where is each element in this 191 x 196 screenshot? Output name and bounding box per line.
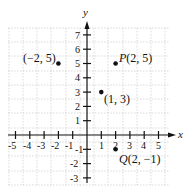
x-tick-label: -5: [8, 140, 16, 151]
y-tick-label: -1: [75, 144, 83, 155]
x-tick-label: 3: [127, 140, 132, 151]
x-tick-label: 1: [99, 140, 104, 151]
y-axis-label: y: [82, 6, 88, 18]
point-q: [113, 147, 118, 152]
point-label-1-3: (1, 3): [104, 92, 130, 106]
x-axis-arrow-icon: [168, 133, 176, 138]
y-tick-label: 3: [75, 87, 80, 98]
point-1-3: [99, 90, 104, 95]
x-tick-label: -1: [65, 140, 73, 151]
x-axis-label: x: [177, 128, 183, 140]
y-tick-label: 6: [75, 44, 80, 55]
y-tick-label: 2: [75, 101, 80, 112]
y-tick-label: -3: [70, 173, 78, 184]
y-tick-label: -2: [70, 158, 78, 169]
y-axis: [83, 21, 91, 183]
x-axis: [8, 131, 176, 139]
y-tick-label: 4: [75, 72, 80, 83]
y-tick-labels: 7 6 5 4 3 2 1 -1 -2 -3: [70, 30, 83, 184]
point-label-p: P(2, 5): [118, 51, 152, 65]
x-tick-label: -4: [23, 140, 31, 151]
point-label-neg2-5: (−2, 5): [23, 51, 56, 65]
x-tick-label: -3: [37, 140, 45, 151]
x-tick-label: -2: [51, 140, 59, 151]
y-axis-arrow-icon: [85, 21, 90, 29]
y-tick-label: 5: [75, 58, 80, 69]
y-tick-label: 1: [75, 115, 80, 126]
point-p: [113, 61, 118, 66]
point-label-q: Q(2, −1): [119, 152, 160, 166]
point-neg2-5: [56, 61, 61, 66]
coordinate-plane: x y -5 -4 -3 -2 -1 1 2 3 4 5 7 6 5 4 3 2…: [0, 0, 191, 196]
x-tick-label: 4: [141, 140, 146, 151]
x-tick-label: 5: [156, 140, 161, 151]
y-tick-label: 7: [75, 30, 80, 41]
